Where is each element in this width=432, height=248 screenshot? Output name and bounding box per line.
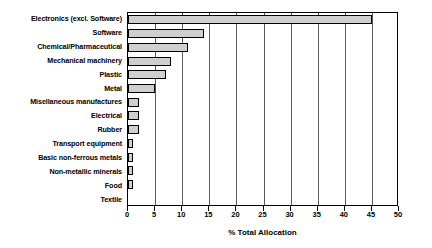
category-label: Software: [0, 26, 125, 40]
bar-row: [128, 95, 397, 109]
bar: [128, 111, 139, 120]
bar-row: [128, 123, 397, 137]
bar: [128, 125, 139, 134]
x-axis-tick-label: 30: [285, 211, 293, 219]
bar-row: [128, 164, 397, 178]
bar-row: [128, 68, 397, 82]
category-label: Plastic: [0, 67, 125, 81]
bar: [128, 153, 133, 162]
bar: [128, 29, 204, 38]
bar: [128, 180, 133, 189]
bar-row: [128, 13, 397, 27]
x-axis-tick-label: 25: [258, 211, 266, 219]
x-axis-tick-label: 45: [367, 211, 375, 219]
x-axis-tick-label: 0: [125, 211, 129, 219]
bar: [128, 139, 133, 148]
category-axis-labels: Electronics (excl. Software)SoftwareChem…: [0, 12, 125, 206]
x-axis-tick-label: 40: [340, 211, 348, 219]
bar: [128, 98, 139, 107]
x-axis-tick-label: 50: [394, 211, 402, 219]
bar-row: [128, 150, 397, 164]
category-label: Non-metallic minerals: [0, 164, 125, 178]
bar: [128, 43, 188, 52]
x-axis-tick-label: 15: [204, 211, 212, 219]
plot-area: [127, 12, 398, 206]
category-label: Textile: [0, 192, 125, 206]
bar: [128, 15, 372, 24]
category-label: Misellaneous manufactures: [0, 95, 125, 109]
bar-row: [128, 40, 397, 54]
x-axis-tick-labels: 05101520253035404550: [127, 211, 398, 223]
x-axis-tick-label: 20: [231, 211, 239, 219]
category-label: Basic non-ferrous metals: [0, 151, 125, 165]
bar-row: [128, 82, 397, 96]
category-label: Metal: [0, 81, 125, 95]
bar: [128, 84, 155, 93]
bar: [128, 70, 166, 79]
category-label: Transport equipment: [0, 137, 125, 151]
bar: [128, 57, 171, 66]
bar: [128, 166, 133, 175]
category-label: Mechanical machinery: [0, 54, 125, 68]
x-axis-tick-label: 35: [313, 211, 321, 219]
bar-row: [128, 136, 397, 150]
category-label: Electrical: [0, 109, 125, 123]
category-label: Rubber: [0, 123, 125, 137]
bar-row: [128, 27, 397, 41]
category-label: Electronics (excl. Software): [0, 12, 125, 26]
bar-row: [128, 191, 397, 205]
x-axis-tick-label: 5: [152, 211, 156, 219]
x-axis-tick-label: 10: [177, 211, 185, 219]
bar-row: [128, 54, 397, 68]
bar-row: [128, 109, 397, 123]
x-axis-title: % Total Allocation: [127, 228, 398, 237]
bar-chart: Electronics (excl. Software)SoftwareChem…: [0, 0, 432, 248]
bar-row: [128, 178, 397, 192]
bar-series: [128, 13, 397, 205]
category-label: Food: [0, 178, 125, 192]
category-label: Chemical/Pharmaceutical: [0, 40, 125, 54]
